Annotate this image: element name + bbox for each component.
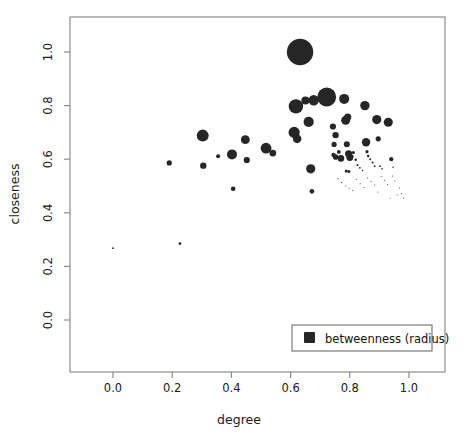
data-point: [367, 155, 369, 157]
data-point: [330, 123, 336, 129]
data-point: [197, 130, 209, 142]
data-point: [301, 97, 309, 105]
y-tick-label: 1.0: [41, 43, 55, 61]
data-point: [357, 164, 359, 166]
data-point: [345, 186, 346, 187]
data-point: [381, 176, 382, 177]
data-point: [227, 149, 237, 159]
x-tick-label: 0.0: [104, 381, 122, 395]
data-point: [374, 165, 376, 167]
data-point: [360, 101, 369, 110]
data-point: [381, 168, 383, 170]
figure-background: [0, 0, 471, 446]
data-point: [304, 117, 314, 127]
data-point: [200, 162, 206, 168]
data-point: [167, 160, 172, 165]
data-point: [399, 187, 400, 188]
y-tick-label: 0.8: [41, 96, 55, 114]
data-point: [352, 151, 355, 154]
data-point: [332, 132, 338, 138]
data-point: [345, 169, 348, 172]
data-point: [323, 94, 334, 105]
data-point: [241, 135, 250, 144]
data-point: [371, 181, 372, 182]
data-point: [244, 157, 250, 163]
x-tick-label: 0.2: [163, 381, 181, 395]
data-point: [376, 136, 381, 141]
data-point: [392, 167, 393, 168]
data-point: [367, 177, 368, 178]
data-point: [374, 184, 375, 185]
data-point: [401, 193, 402, 194]
data-point: [392, 176, 393, 177]
data-point: [372, 115, 381, 124]
data-point: [364, 187, 365, 188]
data-point: [365, 150, 368, 153]
data-point: [287, 39, 313, 65]
x-tick-label: 0.6: [281, 381, 299, 395]
data-point: [337, 178, 338, 179]
data-point: [349, 188, 350, 189]
x-tick-label: 0.8: [341, 381, 359, 395]
data-point: [352, 190, 353, 191]
data-point: [308, 95, 318, 105]
data-point: [341, 182, 342, 183]
data-point: [350, 155, 354, 159]
x-tick-label: 0.4: [222, 381, 240, 395]
data-point: [231, 186, 236, 191]
y-tick-label: 0.6: [41, 150, 55, 168]
data-point: [310, 189, 315, 194]
data-point: [369, 158, 371, 160]
data-point: [403, 198, 404, 199]
y-tick-label: 0.2: [41, 257, 55, 275]
data-point: [344, 141, 350, 147]
data-point: [359, 167, 361, 169]
data-point: [384, 118, 393, 127]
scatter-plot-figure: 0.00.20.40.60.81.0 0.00.20.40.60.81.0 de…: [0, 0, 471, 446]
data-point: [347, 170, 350, 173]
data-point: [360, 183, 361, 184]
y-tick-label: 0.0: [41, 311, 55, 329]
data-point: [384, 180, 385, 181]
data-point: [332, 142, 337, 147]
data-point: [397, 195, 398, 196]
y-tick-label: 0.4: [41, 204, 55, 222]
legend-swatch-betweenness: [304, 332, 315, 343]
data-point: [269, 150, 276, 157]
data-point: [356, 179, 357, 180]
data-point: [289, 99, 303, 113]
data-point: [362, 138, 370, 146]
x-axis-title: degree: [217, 412, 261, 427]
data-point: [338, 155, 345, 162]
data-point: [337, 150, 341, 154]
legend-label-betweenness: betweenness (radius): [325, 332, 449, 346]
data-point: [394, 180, 395, 181]
data-point: [339, 94, 349, 104]
data-point: [112, 247, 114, 249]
data-point: [377, 191, 378, 192]
chart-canvas: 0.00.20.40.60.81.0 0.00.20.40.60.81.0 de…: [0, 0, 471, 446]
data-point: [387, 184, 388, 185]
y-axis-title: closeness: [7, 164, 22, 225]
data-point: [379, 165, 381, 167]
data-point: [354, 158, 357, 161]
data-point: [344, 114, 351, 121]
data-point: [293, 135, 302, 144]
data-point: [390, 198, 391, 199]
chart-legend[interactable]: betweenness (radius): [292, 325, 449, 351]
data-point: [179, 242, 182, 245]
data-point: [216, 154, 220, 158]
x-tick-label: 1.0: [400, 381, 418, 395]
data-point: [306, 164, 315, 173]
data-point: [372, 161, 374, 163]
data-point: [389, 157, 393, 161]
data-point: [362, 170, 364, 172]
data-point: [333, 154, 339, 160]
